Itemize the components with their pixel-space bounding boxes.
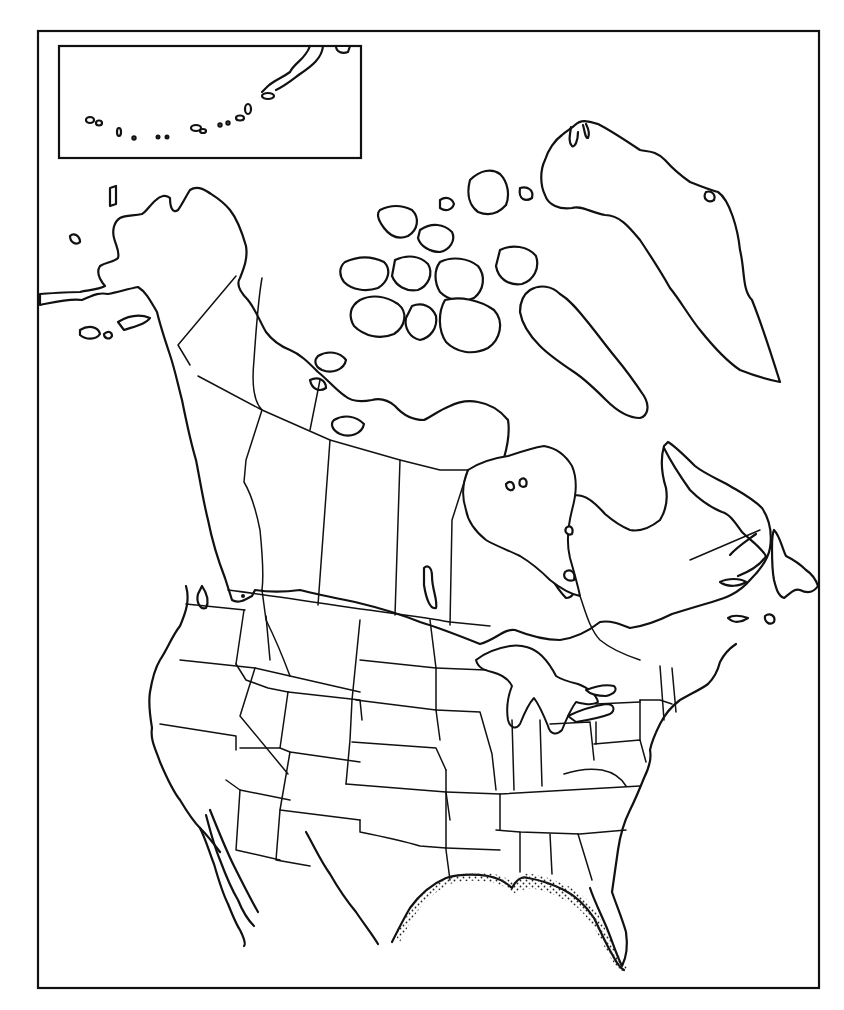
north-america-outline-map: North America <box>0 0 844 1010</box>
united-states <box>149 586 736 972</box>
baffin-island <box>520 287 647 418</box>
aleutian-inset <box>59 46 361 158</box>
newfoundland <box>772 530 818 598</box>
